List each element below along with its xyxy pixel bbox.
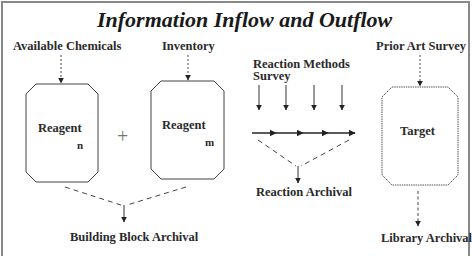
label-prior-art-survey: Prior Art Survey [376, 40, 466, 52]
reagent-m-subscript: m [205, 136, 214, 148]
label-library-archival: Library Archival [381, 232, 472, 244]
label-reaction-methods-survey: Survey [253, 70, 291, 82]
reaction-archival-connector [258, 140, 349, 166]
reagent-n-subscript: n [77, 139, 83, 151]
building-block-connector [65, 187, 186, 205]
plus-operator: + [117, 126, 128, 146]
reagent-m-label: Reagent [162, 119, 206, 131]
label-reaction-archival: Reaction Archival [256, 186, 352, 198]
target-label: Target [400, 125, 435, 137]
label-available-chemicals: Available Chemicals [13, 40, 121, 52]
diagram-title: Information Inflow and Outflow [97, 8, 392, 32]
label-inventory: Inventory [162, 40, 215, 52]
label-building-block-archival: Building Block Archival [70, 231, 198, 243]
reagent-n-label: Reagent [38, 122, 82, 134]
diagram-canvas: Information Inflow and Outflow Available… [0, 0, 472, 256]
